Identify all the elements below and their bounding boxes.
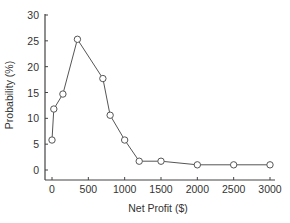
y-tick-label: 10	[27, 112, 39, 124]
data-point-marker	[158, 158, 164, 164]
y-tick-label: 15	[27, 87, 39, 99]
x-tick-label: 3000	[258, 183, 282, 195]
y-tick-label: 30	[27, 9, 39, 21]
data-point-marker	[267, 162, 273, 168]
x-tick-label: 0	[49, 183, 55, 195]
data-point-marker	[136, 158, 142, 164]
y-tick-label: 0	[33, 164, 39, 176]
data-point-marker	[230, 162, 236, 168]
data-point-marker	[100, 75, 106, 81]
x-tick-label: 2000	[186, 183, 210, 195]
y-tick-label: 20	[27, 61, 39, 73]
data-point-marker	[74, 36, 80, 42]
data-point-marker	[121, 137, 127, 143]
x-tick-label: 1000	[113, 183, 137, 195]
x-tick-label: 2500	[222, 183, 246, 195]
data-point-marker	[107, 112, 113, 118]
data-point-marker	[51, 106, 57, 112]
y-tick-label: 25	[27, 35, 39, 47]
series-line	[52, 39, 270, 165]
data-point-marker	[194, 162, 200, 168]
y-tick-label: 5	[33, 138, 39, 150]
data-markers	[49, 36, 273, 168]
data-point-marker	[60, 91, 66, 97]
x-axis-label: Net Profit ($)	[128, 202, 188, 214]
x-tick-label: 500	[80, 183, 98, 195]
line-chart: 051015202530 050010001500200025003000 Ne…	[0, 0, 290, 223]
data-point-marker	[49, 137, 55, 143]
y-axis-label: Probability (%)	[3, 61, 15, 129]
x-tick-label: 1500	[149, 183, 173, 195]
